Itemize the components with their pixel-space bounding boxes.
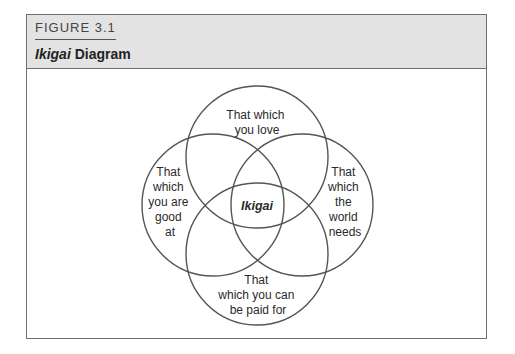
- label-ikigai-center: Ikigai: [241, 199, 273, 213]
- label-good-at: That which you are good at: [148, 165, 191, 239]
- label-love: That which you love: [226, 108, 287, 137]
- ikigai-venn-diagram: That which you love That which you are g…: [0, 0, 515, 354]
- label-world-needs: That which the world needs: [327, 165, 362, 239]
- label-paid-for: That which you can be paid for: [217, 273, 297, 317]
